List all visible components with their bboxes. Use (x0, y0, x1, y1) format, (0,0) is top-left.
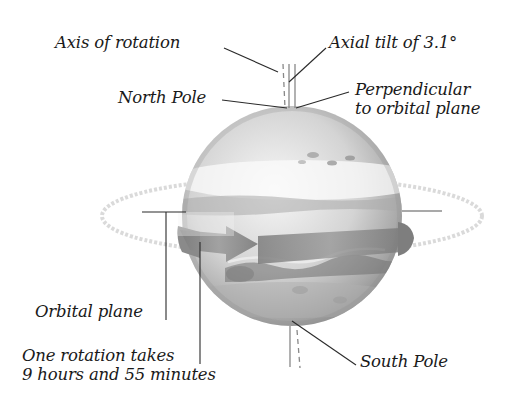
label-orbital-plane: Orbital plane (35, 302, 143, 321)
label-axial-tilt: Axial tilt of 3.1° (329, 33, 457, 52)
leader-north-pole (222, 100, 287, 108)
label-north-pole: North Pole (118, 88, 206, 107)
label-rotation-line2: 9 hours and 55 minutes (22, 365, 216, 384)
label-axis-of-rotation: Axis of rotation (55, 33, 180, 52)
leader-axis-of-rotation (224, 48, 278, 72)
leader-perpendicular (296, 92, 349, 108)
leader-south-pole (292, 321, 356, 365)
label-perpendicular-line1: Perpendicular (355, 80, 470, 99)
label-perpendicular-line2: to orbital plane (355, 99, 480, 118)
label-south-pole: South Pole (360, 352, 448, 371)
label-rotation-line1: One rotation takes (22, 346, 174, 365)
